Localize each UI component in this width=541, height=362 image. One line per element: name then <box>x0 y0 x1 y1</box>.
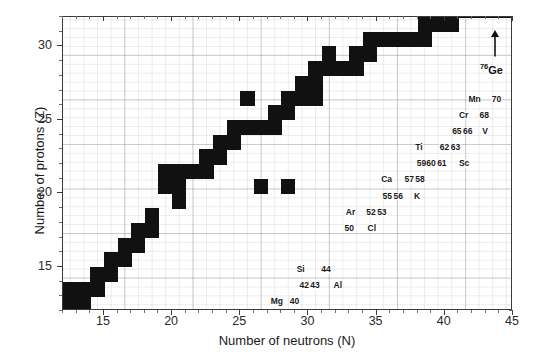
x-axis-minor-tick <box>457 310 458 313</box>
x-axis-minor-tick <box>280 310 281 313</box>
plot-area: Mg404243AlSi4450ClAr52535556KCa575859606… <box>62 16 512 310</box>
nuclide-cell <box>322 61 336 76</box>
nuclide-cell <box>77 282 91 297</box>
x-axis-tick-label: 30 <box>301 314 315 328</box>
nuclide-cell <box>118 252 132 267</box>
isotope-label: 63 <box>450 143 460 152</box>
nuclide-cell <box>377 32 391 47</box>
x-axis-minor-tick <box>212 310 213 313</box>
x-axis-minor-tick <box>485 310 486 313</box>
nuclide-cell <box>390 32 404 47</box>
isotope-label: Al <box>333 281 343 290</box>
isotope-label: 40 <box>289 297 299 306</box>
isotope-label: 61 <box>437 159 447 168</box>
x-axis-minor-tick <box>226 310 227 313</box>
nuclide-cell <box>131 223 145 238</box>
x-axis-top-tick <box>212 16 213 19</box>
nuclide-cell <box>308 76 322 91</box>
isotope-label: 68 <box>479 111 489 120</box>
isotope-label: Ar <box>345 208 355 217</box>
nuclide-cell <box>213 135 227 150</box>
x-axis-top-tick <box>485 16 486 19</box>
nuclide-cell <box>308 91 322 106</box>
isotope-label: 42 <box>299 281 309 290</box>
x-axis-top-tick <box>348 16 349 19</box>
nuclide-cell <box>63 282 77 297</box>
nuclide-cell <box>104 267 118 282</box>
isotope-label: 52 <box>366 208 376 217</box>
x-axis-minor-tick <box>198 310 199 313</box>
isotope-label: Ca <box>381 175 393 184</box>
x-axis-minor-tick <box>76 310 77 313</box>
isotope-label: 66 <box>463 127 473 136</box>
x-axis-minor-tick <box>117 310 118 313</box>
nuclide-cell <box>104 252 118 267</box>
x-axis-top-tick <box>417 16 418 19</box>
nuclide-cell <box>172 164 186 179</box>
y-axis-tick-label: 20 <box>38 185 52 199</box>
x-axis-minor-tick <box>130 310 131 313</box>
x-axis-minor-tick <box>253 310 254 313</box>
x-axis-top-tick <box>430 16 431 19</box>
isotope-label: 62 <box>439 143 449 152</box>
nuclide-cell <box>213 149 227 164</box>
x-axis-minor-tick <box>348 310 349 313</box>
x-axis-top-tick <box>280 16 281 19</box>
nuclide-cell <box>295 91 309 106</box>
x-axis-top-tick <box>76 16 77 19</box>
isotope-label: 50 <box>344 224 354 233</box>
nuclide-cell <box>186 164 200 179</box>
nuclide-cell <box>77 296 91 310</box>
x-axis-top-tick <box>89 16 90 19</box>
x-axis-top-tick <box>117 16 118 19</box>
x-axis-top-tick <box>471 16 472 19</box>
nuclide-cell <box>418 32 432 47</box>
isotope-label: Cl <box>367 224 377 233</box>
x-axis-top-tick <box>362 16 363 19</box>
up-arrow-icon <box>488 29 502 57</box>
isotope-label: 56 <box>393 192 403 201</box>
x-axis-minor-tick <box>185 310 186 313</box>
x-axis-top-tick <box>185 16 186 19</box>
isotope-label: Sc <box>458 159 469 168</box>
x-axis-top-tick <box>321 16 322 19</box>
x-axis-minor-tick <box>417 310 418 313</box>
nuclide-cell <box>281 179 295 194</box>
x-axis-top-tick <box>239 16 240 21</box>
nuclide-cell <box>118 238 132 253</box>
x-axis-minor-tick <box>62 310 63 313</box>
nuclide-cell <box>363 32 377 47</box>
x-axis-top-tick <box>403 16 404 19</box>
x-axis-top-tick <box>457 16 458 19</box>
nuclide-cell <box>418 17 432 32</box>
nuclide-cell <box>199 149 213 164</box>
nuclide-cell <box>158 164 172 179</box>
x-axis-top-tick <box>294 16 295 19</box>
isotope-label: 65 <box>452 127 462 136</box>
x-axis-top-tick <box>444 16 445 21</box>
x-axis-top-tick <box>307 16 308 21</box>
nuclide-cell <box>295 76 309 91</box>
nuclide-cell <box>240 91 254 106</box>
x-axis-top-tick <box>498 16 499 19</box>
x-axis-minor-tick <box>294 310 295 313</box>
x-axis-top-tick <box>253 16 254 19</box>
nuclide-cell <box>404 32 418 47</box>
isotope-label: 44 <box>321 265 331 274</box>
x-axis-top-tick <box>512 16 513 21</box>
nuclide-cell <box>445 17 459 32</box>
isotope-label: 58 <box>415 175 425 184</box>
x-axis-minor-tick <box>471 310 472 313</box>
x-axis-top-tick <box>144 16 145 19</box>
x-axis-tick-label: 15 <box>96 314 110 328</box>
x-axis-minor-tick <box>389 310 390 313</box>
isotope-label: Si <box>296 265 305 274</box>
nuclide-cell <box>308 61 322 76</box>
y-axis-tick-labels: 15202530 <box>0 0 52 362</box>
nuclide-cell <box>336 61 350 76</box>
isotope-label: 70 <box>491 95 501 104</box>
nuclide-cell <box>322 46 336 61</box>
x-axis-tick-label: 25 <box>232 314 246 328</box>
x-axis-tick-label: 40 <box>437 314 451 328</box>
nuclide-cell <box>254 179 268 194</box>
